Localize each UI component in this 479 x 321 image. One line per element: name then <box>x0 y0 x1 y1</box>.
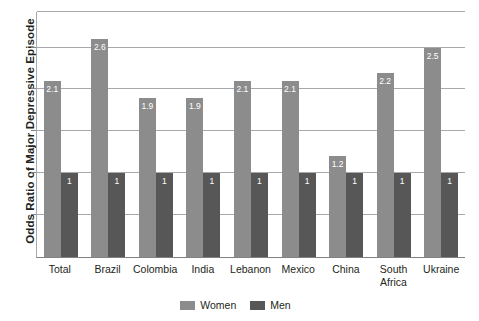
y-tick-1.5 <box>31 130 36 131</box>
bar-women-colombia[interactable]: 1.9 <box>139 98 156 257</box>
bar-group-lebanon: 2.1 1 <box>234 12 268 257</box>
x-label-india: India <box>179 263 227 276</box>
bar-value-label: 1 <box>299 176 316 186</box>
bar-men-lebanon[interactable]: 1 <box>251 173 268 257</box>
bar-group-china: 1.2 1 <box>329 12 363 257</box>
bar-women-brazil[interactable]: 2.6 <box>91 39 108 257</box>
bar-value-label: 2.1 <box>282 84 299 94</box>
bar-value-label: 2.6 <box>91 42 108 52</box>
legend-item-men[interactable]: Men <box>250 299 290 311</box>
bar-women-south-africa[interactable]: 2.2 <box>377 73 394 257</box>
x-label-brazil: Brazil <box>84 263 132 276</box>
bar-value-label: 2.1 <box>44 84 61 94</box>
bar-group-india: 1.9 1 <box>186 12 220 257</box>
bar-groups: 2.1 1 2.6 1 1.9 1 <box>37 12 465 257</box>
bar-women-india[interactable]: 1.9 <box>186 98 203 257</box>
bar-value-label: 1 <box>346 176 363 186</box>
x-label-ukraine: Ukraine <box>417 263 465 276</box>
legend-swatch-men <box>250 301 265 310</box>
y-tick-2.5 <box>31 47 36 48</box>
bar-men-mexico[interactable]: 1 <box>299 173 316 257</box>
bar-women-total[interactable]: 2.1 <box>44 81 61 257</box>
x-label-colombia: Colombia <box>131 263 179 276</box>
bar-value-label: 1.9 <box>186 101 203 111</box>
bar-value-label: 1 <box>394 176 411 186</box>
chart-legend: Women Men <box>0 299 479 311</box>
bar-value-label: 2.1 <box>234 84 251 94</box>
bar-women-mexico[interactable]: 2.1 <box>282 81 299 257</box>
bar-value-label: 1.2 <box>329 159 346 169</box>
x-axis-labels: Total Brazil Colombia India Lebanon Mexi… <box>36 263 465 297</box>
bar-value-label: 1.9 <box>139 101 156 111</box>
bar-men-china[interactable]: 1 <box>346 173 363 257</box>
bar-group-total: 2.1 1 <box>44 12 78 257</box>
bar-value-label: 1 <box>441 176 458 186</box>
x-label-lebanon: Lebanon <box>227 263 275 276</box>
bar-men-ukraine[interactable]: 1 <box>441 173 458 257</box>
bar-men-total[interactable]: 1 <box>61 173 78 257</box>
x-label-china: China <box>322 263 370 276</box>
chart-figure: Odds Ratio of Major Depressive Episode 2… <box>0 0 479 321</box>
bar-group-mexico: 2.1 1 <box>282 12 316 257</box>
bar-value-label: 1 <box>61 176 78 186</box>
bar-women-ukraine[interactable]: 2.5 <box>424 48 441 258</box>
x-label-south-africa: South Africa <box>370 263 418 288</box>
bar-men-south-africa[interactable]: 1 <box>394 173 411 257</box>
legend-label-men: Men <box>270 299 290 311</box>
bar-value-label: 1 <box>203 176 220 186</box>
x-label-total: Total <box>36 263 84 276</box>
bar-group-colombia: 1.9 1 <box>139 12 173 257</box>
bar-group-south-africa: 2.2 1 <box>377 12 411 257</box>
bar-group-ukraine: 2.5 1 <box>424 12 458 257</box>
legend-swatch-women <box>180 301 195 310</box>
plot-area: 2.1 1 2.6 1 1.9 1 <box>36 12 465 258</box>
y-tick-1.0 <box>31 172 36 173</box>
bar-men-colombia[interactable]: 1 <box>156 173 173 257</box>
bar-men-brazil[interactable]: 1 <box>108 173 125 257</box>
x-label-mexico: Mexico <box>274 263 322 276</box>
y-tick-2.0 <box>31 88 36 89</box>
bar-men-india[interactable]: 1 <box>203 173 220 257</box>
bar-women-lebanon[interactable]: 2.1 <box>234 81 251 257</box>
bar-value-label: 1 <box>108 176 125 186</box>
bar-value-label: 2.5 <box>424 51 441 61</box>
bar-women-china[interactable]: 1.2 <box>329 156 346 257</box>
bar-value-label: 2.2 <box>377 76 394 86</box>
bar-value-label: 1 <box>156 176 173 186</box>
y-tick-0.5 <box>31 214 36 215</box>
legend-item-women[interactable]: Women <box>180 299 236 311</box>
bar-value-label: 1 <box>251 176 268 186</box>
legend-label-women: Women <box>200 299 236 311</box>
bar-group-brazil: 2.6 1 <box>91 12 125 257</box>
